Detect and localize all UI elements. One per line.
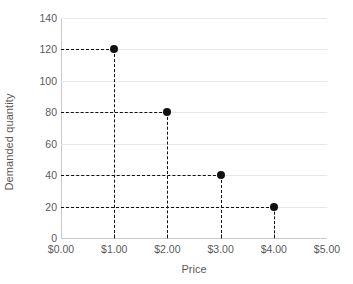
guide-vertical-0: [114, 49, 115, 238]
plot-area: [61, 18, 327, 238]
guide-horizontal-1: [61, 112, 167, 113]
demand-curve-chart: Demanded quantity Price 0204060801001201…: [0, 0, 353, 284]
x-tick-label-3: $3.00: [191, 243, 251, 255]
gridline-y-100: [61, 81, 327, 82]
y-tick-label-120: 120: [5, 44, 57, 54]
data-point-1: [163, 108, 171, 116]
x-tick-label-5: $5.00: [297, 243, 353, 255]
x-axis-line: [61, 238, 327, 239]
y-tick-label-140: 140: [5, 13, 57, 23]
data-point-2: [217, 171, 225, 179]
data-point-0: [110, 45, 118, 53]
x-tick-label-1: $1.00: [84, 243, 144, 255]
gridline-y-60: [61, 144, 327, 145]
x-tick-label-4: $4.00: [244, 243, 304, 255]
y-tick-label-100: 100: [5, 76, 57, 86]
y-tick-label-40: 40: [5, 170, 57, 180]
x-axis-title: Price: [60, 263, 328, 275]
guide-horizontal-0: [61, 49, 114, 50]
y-tick-label-80: 80: [5, 107, 57, 117]
x-tick-label-0: $0.00: [31, 243, 91, 255]
gridline-y-140: [61, 18, 327, 19]
guide-horizontal-2: [61, 175, 221, 176]
y-tick-label-20: 20: [5, 202, 57, 212]
guide-horizontal-3: [61, 207, 274, 208]
data-point-3: [270, 203, 278, 211]
guide-vertical-3: [274, 207, 275, 238]
y-tick-label-0: 0: [5, 233, 57, 243]
y-tick-label-60: 60: [5, 139, 57, 149]
x-tick-label-2: $2.00: [137, 243, 197, 255]
